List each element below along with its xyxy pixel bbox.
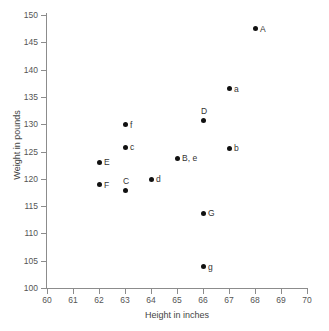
data-point-label: b bbox=[234, 144, 239, 153]
data-point bbox=[201, 118, 206, 123]
x-tick bbox=[281, 288, 282, 294]
y-tick-label: 100 bbox=[0, 284, 38, 293]
x-tick bbox=[73, 288, 74, 294]
data-point-label: c bbox=[130, 143, 134, 152]
data-point bbox=[253, 26, 258, 31]
data-point-label: G bbox=[208, 209, 215, 218]
data-point bbox=[97, 160, 102, 165]
data-point-label: E bbox=[104, 158, 110, 167]
x-tick bbox=[255, 288, 256, 294]
data-point-label: D bbox=[201, 107, 207, 116]
y-tick-label: 150 bbox=[0, 11, 38, 20]
y-tick-label: 140 bbox=[0, 66, 38, 75]
data-point bbox=[123, 122, 128, 127]
x-tick bbox=[177, 288, 178, 294]
x-tick-label: 70 bbox=[292, 296, 322, 305]
data-point bbox=[123, 188, 128, 193]
data-point-label: F bbox=[104, 181, 109, 190]
data-point-label: B, e bbox=[182, 154, 197, 163]
x-tick bbox=[125, 288, 126, 294]
x-tick bbox=[203, 288, 204, 294]
data-point-label: g bbox=[208, 263, 213, 272]
data-point bbox=[201, 264, 206, 269]
data-point bbox=[149, 177, 154, 182]
data-point bbox=[175, 156, 180, 161]
plot-area: AaDfcbB, eEdFCGg bbox=[47, 15, 307, 288]
y-axis-title: Weight in pounds bbox=[12, 75, 22, 215]
data-point bbox=[97, 182, 102, 187]
y-tick-label: 110 bbox=[0, 229, 38, 238]
x-tick bbox=[151, 288, 152, 294]
data-point bbox=[123, 145, 128, 150]
data-point bbox=[201, 211, 206, 216]
data-point-label: d bbox=[156, 175, 161, 184]
data-point-label: C bbox=[123, 177, 129, 186]
data-point bbox=[227, 146, 232, 151]
x-axis-title: Height in inches bbox=[47, 310, 307, 320]
x-tick bbox=[47, 288, 48, 294]
data-point bbox=[227, 86, 232, 91]
y-tick-label: 105 bbox=[0, 257, 38, 266]
x-tick bbox=[307, 288, 308, 294]
data-point-label: f bbox=[130, 121, 132, 130]
x-tick bbox=[99, 288, 100, 294]
data-point-label: A bbox=[260, 25, 266, 34]
scatter-chart: 100105110115120125130135140145150 606162… bbox=[0, 0, 329, 331]
x-tick bbox=[229, 288, 230, 294]
data-point-label: a bbox=[234, 85, 239, 94]
y-tick-label: 145 bbox=[0, 38, 38, 47]
